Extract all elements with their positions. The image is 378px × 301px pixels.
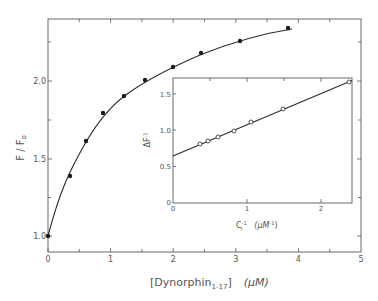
inset-x-ticks [210, 78, 321, 203]
svg-text:0: 0 [167, 199, 171, 207]
inset-y-tick-labels: 0 0.5 1.0 1.5 [160, 91, 171, 207]
inset-x-tick-labels: 0 1 2 [171, 205, 323, 213]
svg-text:1: 1 [108, 255, 113, 264]
svg-text:1.0: 1.0 [33, 232, 46, 241]
inset-y-axis-label: ΔF-1 [142, 132, 152, 147]
main-y-axis-label: F / Fo [15, 135, 28, 161]
svg-text:[Dynorphin1-17](μM): [Dynorphin1-17](μM) [150, 276, 269, 291]
svg-text:1.5: 1.5 [160, 91, 171, 99]
svg-text:1.0: 1.0 [160, 127, 171, 135]
svg-text:4: 4 [296, 255, 301, 264]
svg-text:2.0: 2.0 [33, 77, 46, 86]
figure: 0 1 2 3 4 5 1.0 1.5 2.0 F / Fo [Dynorphi… [0, 0, 378, 301]
svg-text:2: 2 [171, 255, 176, 264]
main-x-axis-label: [Dynorphin1-17](μM) [150, 276, 269, 291]
svg-text:3: 3 [233, 255, 238, 264]
main-x-tick-labels: 0 1 2 3 4 5 [45, 255, 363, 264]
main-plot-frame [48, 19, 361, 252]
svg-text:2: 2 [319, 205, 323, 213]
svg-text:1.5: 1.5 [33, 155, 46, 164]
svg-text:0: 0 [45, 255, 50, 264]
svg-text:ΔF-1: ΔF-1 [142, 132, 152, 147]
main-y-tick-labels: 1.0 1.5 2.0 [33, 77, 46, 241]
svg-text:0.5: 0.5 [160, 163, 171, 171]
svg-text:5: 5 [358, 255, 363, 264]
inset-x-axis-label: C-1f(μM-1) [236, 220, 278, 232]
svg-text:C-1f(μM-1): C-1f(μM-1) [236, 220, 278, 232]
inset-plot-frame [173, 78, 352, 203]
svg-text:F / Fo: F / Fo [15, 135, 28, 161]
main-y-ticks [48, 42, 361, 236]
svg-text:0: 0 [171, 205, 175, 213]
svg-text:1: 1 [245, 205, 249, 213]
